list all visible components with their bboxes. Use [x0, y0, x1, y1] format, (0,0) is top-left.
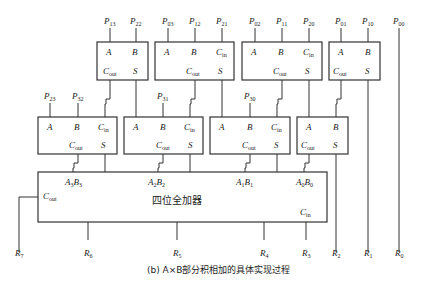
label-p31: P31 [156, 91, 169, 102]
top-to-mid-wires [105, 80, 368, 252]
label-p01: P01 [334, 16, 347, 27]
adder-title: 四位全加器 [152, 194, 202, 206]
svg-text:B: B [278, 47, 284, 57]
svg-text:S: S [188, 140, 193, 150]
svg-text:A: A [105, 47, 112, 57]
label-p12: P12 [188, 16, 201, 27]
label-r1: R1 [363, 248, 373, 259]
svg-text:A: A [218, 122, 225, 132]
label-r5: R5 [172, 248, 182, 259]
mid-full-adder-2: A B Cin Cout S [124, 117, 203, 154]
top-full-adder-3: A B Cin Cout S [242, 42, 322, 80]
svg-text:B: B [333, 122, 339, 132]
mid-input-wires: P23 P32 P31 P30 [43, 91, 256, 117]
top-half-adder-1: A B Cout S [97, 42, 148, 80]
mid-half-adder-4: A B Cout S [297, 117, 348, 154]
label-p32: P32 [71, 91, 84, 102]
svg-text:S: S [274, 140, 279, 150]
svg-text:B: B [132, 47, 138, 57]
label-p30: P30 [243, 91, 256, 102]
top-half-adder-4: A B Cout S [329, 42, 380, 80]
svg-text:S: S [133, 66, 138, 76]
label-p13: P13 [103, 16, 116, 27]
svg-text:S: S [365, 66, 370, 76]
label-p22: P22 [129, 16, 142, 27]
label-r4: R4 [259, 248, 269, 259]
label-r6: R6 [83, 248, 93, 259]
svg-text:B: B [191, 47, 197, 57]
mid-full-adder-3: A B Cin Cout S [210, 117, 290, 154]
mid-full-adder-1: A B Cin Cout S [38, 117, 117, 154]
output-labels: R7 R6 R5 R4 R3 R2 R1 R0 [14, 248, 404, 259]
svg-text:B: B [160, 122, 166, 132]
label-p20: P20 [302, 16, 315, 27]
svg-text:A: A [132, 122, 139, 132]
label-p21: P21 [215, 16, 228, 27]
svg-text:B: B [74, 122, 80, 132]
svg-text:B: B [247, 122, 253, 132]
adder-array-diagram: P13 P22 P03 P12 P21 P02 P11 P20 P01 P10 … [0, 0, 421, 286]
label-p11: P11 [275, 16, 287, 27]
svg-text:A: A [163, 47, 170, 57]
label-p00: P00 [392, 16, 405, 27]
label-p02: P02 [248, 16, 261, 27]
label-p03: P03 [161, 16, 174, 27]
figure-caption: (b) A×B部分积相加的具体实现过程 [147, 264, 290, 275]
label-r3: R3 [301, 248, 311, 259]
label-r2: R2 [331, 248, 341, 259]
top-full-adder-2: A B Cin Cout S [155, 42, 234, 80]
top-input-labels: P13 P22 P03 P12 P21 P02 P11 P20 P01 P10 … [103, 16, 405, 27]
svg-text:A: A [337, 47, 344, 57]
svg-text:S: S [305, 66, 310, 76]
label-r7: R7 [14, 248, 24, 259]
svg-text:A: A [46, 122, 53, 132]
svg-text:S: S [333, 140, 338, 150]
svg-text:S: S [101, 140, 106, 150]
label-p10: P10 [361, 16, 374, 27]
svg-text:A: A [250, 47, 257, 57]
svg-text:S: S [218, 66, 223, 76]
label-p23: P23 [43, 91, 56, 102]
svg-text:A: A [305, 122, 312, 132]
svg-text:B: B [365, 47, 371, 57]
label-r0: R0 [394, 248, 404, 259]
four-bit-full-adder: A3B3 A2B2 A1B1 A0B0 Cout Cin 四位全加器 [38, 172, 327, 222]
